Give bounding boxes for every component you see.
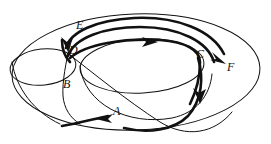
torus-diagram: A B C D E F xyxy=(0,0,271,144)
torus-outline-group xyxy=(8,10,262,135)
label-E: E xyxy=(76,19,83,31)
label-B: B xyxy=(63,78,70,90)
label-A: A xyxy=(113,105,120,117)
thick-bottom-curve xyxy=(62,116,108,126)
outer-ellipse-curve xyxy=(10,10,262,135)
thick-loop-outer-curve-2 xyxy=(68,27,214,62)
thick-loop-inner-curve xyxy=(70,40,200,104)
label-F: F xyxy=(227,61,234,73)
bold-curve-group xyxy=(62,18,224,131)
label-C: C xyxy=(196,48,204,60)
tube-join-arc xyxy=(12,62,60,124)
label-D: D xyxy=(69,44,78,56)
arrow-a-icon xyxy=(96,114,113,123)
